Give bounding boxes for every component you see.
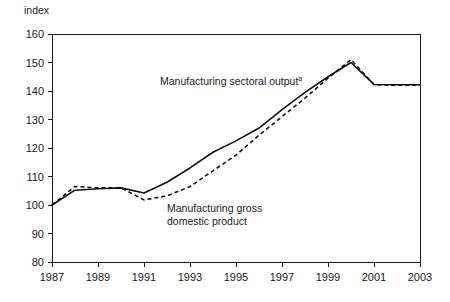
y-axis-label-160: 160 <box>26 28 44 40</box>
y-axis-label-80: 80 <box>32 256 44 268</box>
y-axis-label-120: 120 <box>26 142 44 154</box>
chart-annotations: Manufacturing sectoral outputaManufactur… <box>160 75 302 227</box>
annotation-dashed-series-label-line1: Manufacturing gross <box>167 202 262 214</box>
x-axis-label-1995: 1995 <box>224 271 248 283</box>
x-axis-tick-marks <box>52 262 420 267</box>
x-axis-label-1989: 1989 <box>86 271 110 283</box>
line-chart: 8090100110120130140150160 19871989199119… <box>0 0 450 302</box>
y-axis-title: index <box>24 4 50 16</box>
x-axis-label-1999: 1999 <box>316 271 340 283</box>
x-axis-label-2001: 2001 <box>362 271 386 283</box>
x-axis-tick-labels: 198719891991199319951997199920012003 <box>40 271 432 283</box>
x-axis-label-1993: 1993 <box>178 271 202 283</box>
x-axis-label-1987: 1987 <box>40 271 64 283</box>
x-axis-label-1997: 1997 <box>270 271 294 283</box>
annotation-superscript: a <box>298 75 302 82</box>
y-axis-label-90: 90 <box>32 228 44 240</box>
x-axis-label-2003: 2003 <box>408 271 432 283</box>
plot-frame <box>52 34 420 262</box>
chart-container: 8090100110120130140150160 19871989199119… <box>0 0 450 302</box>
x-axis-label-1991: 1991 <box>132 271 156 283</box>
y-axis-label-150: 150 <box>26 57 44 69</box>
annotation-dashed-series-label-line2: domestic product <box>167 215 247 227</box>
annotation-solid-series-label: Manufacturing sectoral outputa <box>160 75 302 87</box>
y-axis-label-130: 130 <box>26 114 44 126</box>
y-axis-tick-marks <box>48 34 52 262</box>
y-axis-label-140: 140 <box>26 85 44 97</box>
y-axis-label-100: 100 <box>26 199 44 211</box>
y-axis-tick-labels: 8090100110120130140150160 <box>26 28 44 268</box>
y-axis-label-110: 110 <box>26 171 44 183</box>
